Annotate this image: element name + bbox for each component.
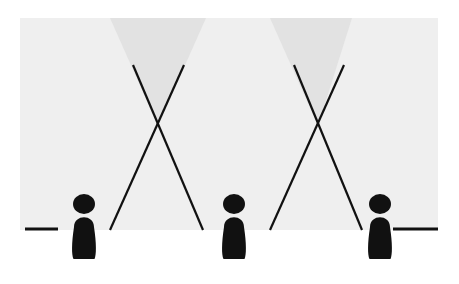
figure-right-head bbox=[369, 194, 391, 214]
line-of-sight-diagram bbox=[0, 0, 459, 284]
figure-right-body bbox=[368, 217, 392, 259]
figure-center-body bbox=[222, 217, 246, 259]
figure-left bbox=[72, 194, 96, 259]
diagram-canvas bbox=[0, 0, 459, 284]
figure-right bbox=[368, 194, 392, 259]
figure-center-head bbox=[223, 194, 245, 214]
figure-center bbox=[222, 194, 246, 259]
figure-left-body bbox=[72, 217, 96, 259]
figure-left-head bbox=[73, 194, 95, 214]
